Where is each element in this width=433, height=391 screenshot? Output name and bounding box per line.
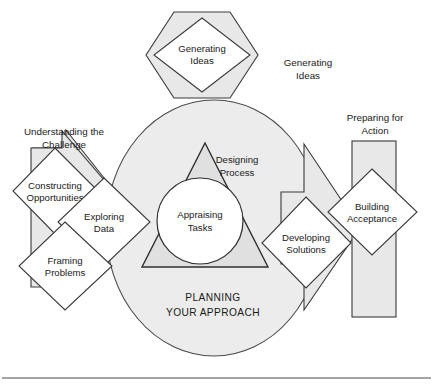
exploring-data-label-line1: Exploring: [84, 211, 124, 222]
outer-label-generating-ideas: Generating Ideas: [284, 57, 332, 81]
generating-ideas-label-line1: Generating: [178, 43, 225, 54]
appraising-tasks-label-line2: Tasks: [188, 222, 213, 233]
framing-problems-label-line1: Framing: [47, 255, 82, 266]
developing-solutions-label-line1: Developing: [282, 232, 330, 243]
appraising-tasks-circle: [157, 178, 243, 264]
outer-label-understanding-challenge-line2: Challenge: [42, 139, 87, 150]
designing-process-label-line2: Process: [220, 167, 255, 178]
building-acceptance-label-line1: Building: [355, 201, 389, 212]
generating-ideas-label-line2: Ideas: [190, 55, 214, 66]
caption-line2: YOUR APPROACH: [166, 307, 260, 318]
outer-label-understanding-challenge-line1: Understanding the: [24, 126, 105, 137]
framing-problems-label-line2: Problems: [45, 267, 86, 278]
building-acceptance-label-line2: Acceptance: [347, 213, 397, 224]
outer-label-generating-ideas-line2: Ideas: [296, 70, 320, 81]
planning-your-approach-diagram: Generating Ideas Constructing Opportunit…: [0, 0, 433, 391]
caption-line1: PLANNING: [185, 292, 240, 303]
constructing-opportunities-label-line1: Constructing: [28, 180, 82, 191]
designing-process-label-line1: Designing: [216, 154, 259, 165]
developing-solutions-label-line2: Solutions: [286, 244, 326, 255]
outer-label-preparing-action-line2: Action: [361, 125, 388, 136]
appraising-tasks-label-line1: Appraising: [177, 209, 222, 220]
outer-label-preparing-action: Preparing for Action: [347, 112, 404, 136]
outer-label-preparing-action-line1: Preparing for: [347, 112, 404, 123]
constructing-opportunities-label-line2: Opportunities: [26, 192, 83, 203]
exploring-data-label-line2: Data: [94, 223, 115, 234]
outer-label-generating-ideas-line1: Generating: [284, 57, 332, 68]
diagram-canvas: Generating Ideas Constructing Opportunit…: [0, 0, 433, 391]
